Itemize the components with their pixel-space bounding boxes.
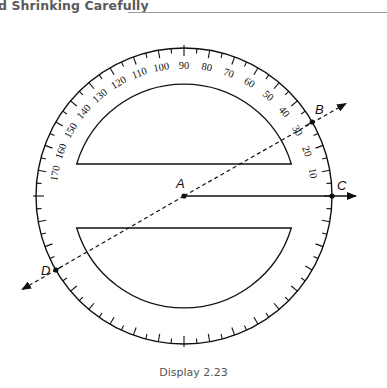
label-C: C <box>337 178 347 193</box>
scale-label: 110 <box>130 65 148 81</box>
tick-mark <box>291 101 297 106</box>
tick-mark <box>208 50 209 58</box>
tick-mark <box>322 233 327 234</box>
tick-mark <box>266 75 269 79</box>
tick-mark <box>50 133 55 135</box>
tick-mark <box>291 286 297 291</box>
tick-mark <box>41 158 46 159</box>
tick-mark <box>301 278 305 281</box>
label-A: A <box>175 176 185 191</box>
tick-mark <box>221 53 222 58</box>
tick-mark <box>274 83 279 89</box>
tick-mark <box>121 62 123 67</box>
tick-mark <box>133 328 136 336</box>
tick-mark <box>99 75 102 79</box>
tick-mark <box>314 256 319 258</box>
protractor-diagram: 1020304050607080901001101201301401501601… <box>0 0 387 388</box>
tick-mark <box>316 244 324 247</box>
scale-label: 30 <box>290 123 305 138</box>
scale-label: 140 <box>74 102 93 121</box>
tick-mark <box>305 266 312 270</box>
tick-mark <box>79 297 83 301</box>
tick-mark <box>79 91 83 95</box>
scale-label: 90 <box>179 60 190 71</box>
scale-label: 170 <box>48 165 62 182</box>
point-C <box>329 193 334 198</box>
tick-mark <box>285 297 289 301</box>
point-D <box>53 267 58 272</box>
tick-mark <box>158 50 159 58</box>
point-A <box>181 193 186 198</box>
tick-mark <box>110 317 114 324</box>
tick-mark <box>208 334 209 342</box>
scale-label: 130 <box>90 86 109 105</box>
tick-mark <box>274 303 279 309</box>
scale-label: 20 <box>300 144 314 158</box>
tick-mark <box>71 101 77 106</box>
tick-mark <box>63 278 67 281</box>
scale-label: 50 <box>261 88 276 103</box>
tick-mark <box>244 326 246 331</box>
tick-mark <box>285 91 289 95</box>
tick-mark <box>133 57 136 65</box>
tick-mark <box>45 244 53 247</box>
label-B: B <box>315 102 324 117</box>
scale-label: 70 <box>222 66 236 80</box>
tick-mark <box>254 317 258 324</box>
upper-cutout <box>77 84 292 164</box>
tick-mark <box>158 334 159 342</box>
tick-mark <box>244 62 246 67</box>
tick-mark <box>38 170 46 171</box>
tick-mark <box>322 170 330 171</box>
scale-label: 160 <box>53 142 69 161</box>
figure-caption: Display 2.23 <box>0 366 387 379</box>
tick-mark <box>232 328 235 336</box>
tick-mark <box>89 83 94 89</box>
scale-label: 60 <box>242 75 257 90</box>
tick-mark <box>266 313 269 317</box>
tick-mark <box>314 133 319 135</box>
label-D: D <box>41 263 50 278</box>
tick-mark <box>63 111 67 114</box>
tick-mark <box>50 256 55 258</box>
scale-label: 100 <box>153 60 170 74</box>
tick-mark <box>221 334 222 339</box>
point-B <box>310 119 315 124</box>
scale-label: 150 <box>62 121 79 140</box>
tick-mark <box>146 334 147 339</box>
tick-mark <box>38 220 46 221</box>
tick-mark <box>254 68 258 75</box>
tick-mark <box>41 233 46 234</box>
tick-mark <box>301 111 305 114</box>
scale-label: 10 <box>307 167 320 179</box>
tick-mark <box>146 53 147 58</box>
tick-mark <box>99 313 102 317</box>
tick-mark <box>322 158 327 159</box>
scale-label: 120 <box>109 74 128 91</box>
tick-mark <box>56 122 63 126</box>
scale-label: 40 <box>277 104 292 119</box>
tick-mark <box>232 57 235 65</box>
tick-mark <box>89 303 94 309</box>
tick-mark <box>71 286 77 291</box>
ray-AB-dashed <box>184 104 346 197</box>
tick-mark <box>110 68 114 75</box>
tick-mark <box>322 220 330 221</box>
tick-mark <box>316 145 324 148</box>
tick-mark <box>121 326 123 331</box>
tick-mark <box>45 145 53 148</box>
scale-label: 80 <box>201 61 213 74</box>
